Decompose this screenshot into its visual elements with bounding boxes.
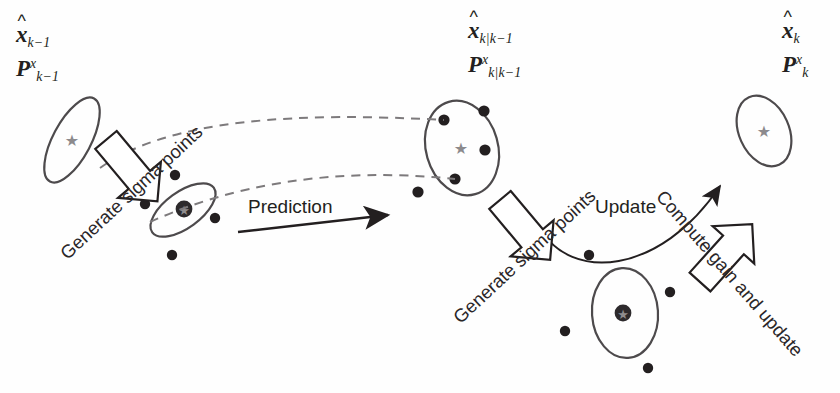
- label-state-post: ^xk: [782, 18, 800, 47]
- annotation-update: Update: [595, 196, 656, 218]
- cov-symbol-pred: P: [468, 52, 482, 77]
- label-state-prev: ^xk−1: [16, 22, 50, 51]
- label-cov-post: Pxk: [782, 52, 809, 81]
- cov-symbol-post: P: [782, 52, 796, 77]
- label-cov-pred: Pxk|k−1: [468, 52, 521, 81]
- mean-star-post: ★: [757, 122, 771, 141]
- mean-star-prev: ★: [65, 131, 79, 150]
- state-subscript-post: k: [794, 31, 800, 46]
- cov-subscript-post: k: [802, 65, 808, 80]
- mean-star-pred: ★: [454, 139, 468, 158]
- annotation-prediction: Prediction: [248, 196, 333, 218]
- sigma-points-pred-ellipse: [412, 105, 490, 197]
- cov-symbol-prev: P: [16, 56, 30, 81]
- state-subscript-pred: k|k−1: [480, 31, 513, 46]
- hat-accent-prev: ^: [18, 11, 26, 32]
- cov-subscript-prev: k−1: [36, 69, 59, 84]
- ukf-cycle-diagram: ★ ★ ★ ★ ★: [0, 0, 840, 393]
- hat-accent-post: ^: [784, 7, 792, 28]
- svg-text:★: ★: [617, 307, 629, 322]
- label-cov-prev: Pxk−1: [16, 56, 59, 85]
- hat-accent-pred: ^: [470, 7, 478, 28]
- label-state-pred: ^xk|k−1: [468, 18, 513, 47]
- state-subscript-prev: k−1: [28, 35, 51, 50]
- cov-subscript-pred: k|k−1: [488, 65, 521, 80]
